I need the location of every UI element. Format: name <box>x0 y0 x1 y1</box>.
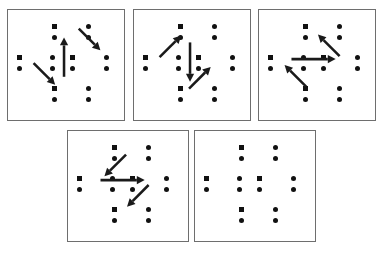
arrow-down-right-upper <box>79 29 101 51</box>
dot-marker-top-left-bottom <box>239 156 244 161</box>
arrow-down-vertical <box>186 42 194 81</box>
dot-marker-mid-far-left-bottom <box>204 187 209 192</box>
arrow-up-left-lower <box>285 65 307 87</box>
dot-marker-mid-left-bottom <box>237 187 242 192</box>
dot-marker-bot-right-bottom <box>273 218 278 223</box>
arrow-up-vertical <box>60 38 68 77</box>
dot-marker-bot-right-top <box>273 207 278 212</box>
arrow-layer <box>134 10 250 120</box>
panel-content <box>68 131 188 241</box>
dot-marker-mid-far-right-bottom <box>291 187 296 192</box>
arrow-up-left-upper <box>318 35 340 57</box>
panel-4 <box>67 130 189 242</box>
arrow-down-left-upper <box>104 155 126 177</box>
arrow-right-horizontal <box>101 176 145 184</box>
square-marker-mid-far-left-top <box>204 176 209 181</box>
panel-3 <box>258 9 376 121</box>
arrow-down-right-lower <box>34 63 56 85</box>
arrow-down-left-lower <box>127 185 149 207</box>
panel-content <box>134 10 250 120</box>
dot-marker-top-right-bottom <box>273 156 278 161</box>
dot-marker-top-right-top <box>273 145 278 150</box>
panel-content <box>195 131 315 241</box>
arrow-layer <box>8 10 124 120</box>
dot-marker-bot-left-bottom <box>239 218 244 223</box>
figure-canvas <box>0 0 382 258</box>
dot-marker-mid-right-bottom <box>257 187 262 192</box>
dot-marker-mid-left-top <box>237 176 242 181</box>
square-marker-bot-left-top <box>239 207 244 212</box>
panel-5 <box>194 130 316 242</box>
arrow-layer <box>68 131 188 241</box>
arrow-layer <box>259 10 375 120</box>
arrow-up-right-lower <box>189 67 211 89</box>
square-marker-top-left-top <box>239 145 244 150</box>
square-marker-mid-right-top <box>257 176 262 181</box>
panel-content <box>259 10 375 120</box>
dot-marker-mid-far-right-top <box>291 176 296 181</box>
arrow-right-horizontal <box>291 55 335 63</box>
arrow-up-right-upper <box>160 36 182 58</box>
panel-1 <box>7 9 125 121</box>
panel-2 <box>133 9 251 121</box>
panel-content <box>8 10 124 120</box>
